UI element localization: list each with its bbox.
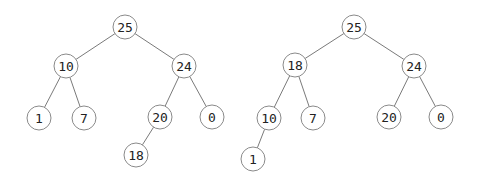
node-label: 7 [309, 111, 317, 126]
tree-node: 18 [124, 143, 148, 167]
node-label: 24 [406, 59, 422, 74]
tree-node: 7 [301, 106, 325, 130]
node-label: 10 [58, 59, 74, 74]
tree-edge [394, 77, 408, 106]
tree-edge [257, 129, 264, 148]
node-label: 20 [152, 110, 168, 125]
node-label: 7 [80, 111, 88, 126]
tree-edge [190, 77, 206, 107]
node-label: 1 [249, 152, 257, 167]
nodes: 25102417200182518241072001 [27, 15, 453, 171]
node-label: 10 [261, 111, 277, 126]
tree-edge [70, 77, 80, 106]
tree-node: 0 [200, 105, 224, 129]
tree-node: 1 [27, 106, 51, 130]
node-label: 25 [346, 20, 362, 35]
tree-edge [165, 77, 179, 106]
tree-edge [420, 77, 436, 107]
tree-node: 24 [172, 54, 196, 78]
tree-edge [135, 34, 174, 60]
tree-edge [142, 127, 153, 145]
edges [45, 33, 436, 147]
tree-edge [299, 76, 309, 106]
node-label: 24 [176, 59, 192, 74]
tree-edge [274, 76, 289, 107]
tree-node: 20 [377, 105, 401, 129]
tree-node: 10 [54, 54, 78, 78]
tree-node: 25 [342, 15, 366, 39]
tree-node: 10 [257, 106, 281, 130]
node-label: 1 [35, 111, 43, 126]
node-label: 20 [381, 110, 397, 125]
tree-node: 24 [402, 54, 426, 78]
node-label: 25 [117, 20, 133, 35]
tree-edge [45, 77, 61, 108]
tree-node: 18 [283, 53, 307, 77]
node-label: 0 [437, 110, 445, 125]
tree-edge [305, 33, 344, 58]
node-label: 18 [128, 148, 144, 163]
node-label: 18 [287, 58, 303, 73]
tree-node: 20 [148, 105, 172, 129]
tree-edge [76, 34, 115, 60]
tree-node: 7 [72, 106, 96, 130]
node-label: 0 [208, 110, 216, 125]
heap-diagram: 25102417200182518241072001 [0, 0, 482, 182]
tree-node: 25 [113, 15, 137, 39]
tree-edge [364, 34, 404, 60]
tree-node: 0 [429, 105, 453, 129]
tree-node: 1 [241, 147, 265, 171]
